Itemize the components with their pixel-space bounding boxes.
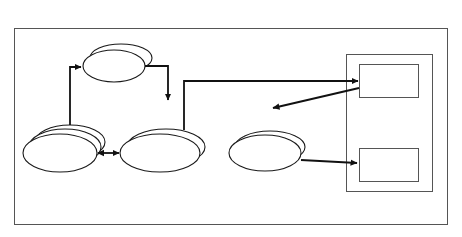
response-queue-node xyxy=(360,149,419,182)
architecture-diagram xyxy=(0,0,462,237)
request-queue-node xyxy=(360,65,419,98)
